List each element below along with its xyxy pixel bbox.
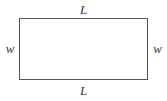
length-label-bottom: L bbox=[0, 84, 167, 97]
rectangle-shape bbox=[19, 18, 148, 80]
width-label-left: w bbox=[3, 42, 17, 55]
width-label-right: w bbox=[150, 42, 165, 55]
length-label-top: L bbox=[0, 3, 167, 16]
rectangle-diagram: L w w L bbox=[0, 0, 167, 101]
